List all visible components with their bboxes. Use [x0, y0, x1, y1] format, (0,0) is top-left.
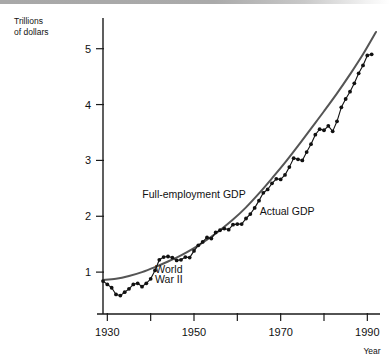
- actual-gdp-line: [103, 54, 372, 295]
- data-point-marker: [149, 277, 153, 281]
- data-point-marker: [235, 222, 239, 226]
- data-point-marker: [365, 54, 369, 58]
- data-point-marker: [162, 255, 166, 259]
- y-axis-title-line1: Trillions: [14, 16, 43, 26]
- data-point-marker: [205, 236, 209, 240]
- data-point-marker: [296, 157, 300, 161]
- x-tick-label: 1990: [355, 326, 379, 338]
- data-point-marker: [140, 285, 144, 289]
- y-axis-title-line2: of dollars: [14, 27, 49, 37]
- data-point-marker: [361, 64, 365, 68]
- chart-annotation-label: Full-employment GDP: [142, 188, 245, 200]
- data-point-marker: [218, 228, 222, 232]
- data-point-marker: [248, 212, 252, 216]
- data-point-marker: [222, 227, 226, 231]
- gdp-chart-figure: 12345 1930195019701990 Trillions of doll…: [0, 4, 390, 356]
- data-point-marker: [300, 159, 304, 163]
- data-point-marker: [287, 165, 291, 169]
- data-point-marker: [244, 217, 248, 221]
- chart-annotations: Full-employment GDPActual GDPWorldWar II: [142, 188, 314, 285]
- data-point-marker: [127, 287, 131, 291]
- data-point-marker: [175, 258, 179, 262]
- x-tick-labels: 1930195019701990: [95, 326, 379, 338]
- data-point-marker: [257, 199, 261, 203]
- data-point-marker: [209, 237, 213, 241]
- x-tick-label: 1970: [268, 326, 292, 338]
- data-point-marker: [292, 156, 296, 160]
- data-point-marker: [322, 128, 326, 132]
- data-point-marker: [335, 119, 339, 123]
- data-point-marker: [339, 105, 343, 109]
- data-point-marker: [279, 178, 283, 182]
- y-axis-group: 12345: [85, 18, 104, 314]
- data-point-marker: [110, 286, 114, 290]
- data-point-marker: [192, 249, 196, 253]
- chart-annotation-label: War II: [155, 273, 183, 285]
- y-tick-label: 3: [85, 154, 91, 166]
- x-tick-label: 1930: [95, 326, 119, 338]
- data-point-marker: [118, 294, 122, 298]
- data-point-marker: [179, 258, 183, 262]
- data-point-marker: [166, 255, 170, 259]
- data-point-marker: [231, 223, 235, 227]
- x-tick-label: 1950: [182, 326, 206, 338]
- data-point-marker: [136, 281, 140, 285]
- x-axis-group: 1930195019701990: [95, 313, 380, 338]
- data-point-marker: [357, 71, 361, 75]
- data-point-marker: [227, 228, 231, 232]
- y-tick-label: 5: [85, 43, 91, 55]
- data-point-marker: [240, 222, 244, 226]
- data-point-marker: [318, 127, 322, 131]
- data-point-marker: [261, 191, 265, 195]
- data-point-marker: [266, 188, 270, 192]
- data-point-marker: [170, 256, 174, 260]
- actual-gdp-markers: [101, 52, 373, 297]
- data-point-marker: [283, 173, 287, 177]
- data-point-marker: [196, 243, 200, 247]
- y-tick-label: 2: [85, 210, 91, 222]
- data-point-marker: [101, 279, 105, 283]
- data-point-marker: [313, 133, 317, 137]
- y-tick-labels: 12345: [85, 43, 91, 278]
- data-point-marker: [188, 256, 192, 260]
- y-tick-label: 1: [85, 266, 91, 278]
- gdp-line-chart: 12345 1930195019701990 Trillions of doll…: [0, 4, 390, 356]
- data-point-marker: [326, 124, 330, 128]
- data-point-marker: [274, 177, 278, 181]
- data-point-marker: [348, 90, 352, 94]
- data-point-marker: [183, 255, 187, 259]
- data-point-marker: [309, 142, 313, 146]
- y-tick-label: 4: [85, 99, 91, 111]
- data-point-marker: [331, 129, 335, 133]
- data-point-marker: [305, 150, 309, 154]
- data-point-marker: [214, 231, 218, 235]
- data-point-marker: [344, 97, 348, 101]
- data-point-marker: [114, 293, 118, 297]
- data-point-marker: [352, 81, 356, 85]
- x-axis-title: Year: [363, 346, 380, 356]
- axis-titles: Trillions of dollars Year: [14, 16, 381, 356]
- chart-annotation-label: Actual GDP: [260, 205, 315, 217]
- data-point-marker: [370, 52, 374, 56]
- data-point-marker: [105, 283, 109, 287]
- data-point-marker: [123, 290, 127, 294]
- data-point-marker: [201, 240, 205, 244]
- data-point-marker: [157, 258, 161, 262]
- data-point-marker: [253, 206, 257, 210]
- full-employment-gdp-curve: [103, 32, 376, 280]
- data-point-marker: [131, 283, 135, 287]
- data-point-marker: [144, 281, 148, 285]
- data-point-marker: [270, 181, 274, 185]
